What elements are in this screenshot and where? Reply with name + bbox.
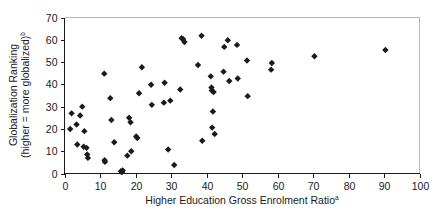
x-tick-label-80: 80 xyxy=(344,180,356,192)
data-point xyxy=(211,131,217,137)
y-tick-label-10: 10 xyxy=(46,145,58,157)
data-point xyxy=(136,90,142,96)
data-point xyxy=(244,93,250,99)
y-axis-tick-labels: 010203040506070 xyxy=(46,12,58,180)
x-tick-label-60: 60 xyxy=(273,180,285,192)
data-point xyxy=(124,152,130,158)
y-tick-label-60: 60 xyxy=(46,34,58,46)
data-point xyxy=(235,75,241,81)
data-point xyxy=(210,108,216,114)
y-tick-label-50: 50 xyxy=(46,56,58,68)
data-point xyxy=(382,47,388,53)
x-tick-label-100: 100 xyxy=(412,180,430,192)
y-axis-title-line1: Globalization Ranking xyxy=(7,44,19,146)
data-point xyxy=(198,33,204,39)
data-point xyxy=(311,53,317,59)
x-tick-label-10: 10 xyxy=(95,180,107,192)
data-point xyxy=(74,141,80,147)
data-point xyxy=(108,117,114,123)
data-point xyxy=(208,73,214,79)
data-point xyxy=(149,102,155,108)
x-axis-ticks xyxy=(66,174,421,178)
data-point xyxy=(225,37,231,43)
data-point xyxy=(68,110,74,116)
data-point xyxy=(77,112,83,118)
data-point xyxy=(171,162,177,168)
data-point-group xyxy=(67,33,389,176)
x-tick-label-30: 30 xyxy=(166,180,178,192)
data-point xyxy=(226,78,232,84)
data-point xyxy=(111,139,117,145)
y-tick-label-70: 70 xyxy=(46,12,58,24)
data-point xyxy=(79,103,85,109)
data-point xyxy=(269,60,275,66)
data-point xyxy=(165,146,171,152)
x-axis-title: Higher Education Gross Enrolment Ratioa xyxy=(145,194,339,206)
scatter-plot-svg: 010203040506070 0102030405060708090100 H… xyxy=(0,0,441,212)
data-point xyxy=(148,82,154,88)
y-axis: 010203040506070 xyxy=(46,12,65,180)
x-tick-label-50: 50 xyxy=(237,180,249,192)
data-point xyxy=(73,121,79,127)
x-tick-label-40: 40 xyxy=(202,180,214,192)
y-tick-label-0: 0 xyxy=(52,168,58,180)
data-point xyxy=(220,68,226,74)
scatter-chart-figure: 010203040506070 0102030405060708090100 H… xyxy=(0,0,441,212)
y-tick-label-40: 40 xyxy=(46,78,58,90)
x-tick-label-70: 70 xyxy=(308,180,320,192)
data-point xyxy=(161,80,167,86)
data-point xyxy=(101,70,107,76)
data-point xyxy=(234,42,240,48)
data-point xyxy=(128,148,134,154)
y-axis-ticks xyxy=(61,19,65,175)
plot-frame xyxy=(65,18,420,174)
data-point xyxy=(199,138,205,144)
data-point xyxy=(195,62,201,68)
y-tick-label-30: 30 xyxy=(46,101,58,113)
y-tick-label-20: 20 xyxy=(46,123,58,135)
data-point xyxy=(221,44,227,50)
data-point xyxy=(268,66,274,72)
data-point xyxy=(244,57,250,63)
x-tick-label-20: 20 xyxy=(131,180,143,192)
y-axis-title-line2: (higher = more globalized)b xyxy=(19,32,31,158)
x-tick-label-90: 90 xyxy=(379,180,391,192)
data-point xyxy=(209,124,215,130)
data-point xyxy=(167,97,173,103)
data-point xyxy=(81,128,87,134)
data-point xyxy=(177,86,183,92)
x-axis: 0102030405060708090100 xyxy=(63,174,430,192)
data-point xyxy=(139,64,145,70)
x-axis-tick-labels: 0102030405060708090100 xyxy=(63,180,430,192)
data-point xyxy=(67,126,73,132)
data-point xyxy=(161,99,167,105)
data-point xyxy=(107,95,113,101)
x-tick-label-0: 0 xyxy=(63,180,69,192)
